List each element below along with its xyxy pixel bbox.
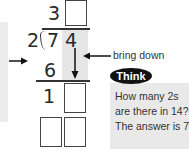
quotient-tens-digit: 3 [48,4,60,23]
think-badge: Think [110,68,152,84]
arrow-left-icon [82,51,112,61]
bring-down-label: bring down [113,49,164,61]
think-line-1: How many 2s [115,90,179,102]
product2-ones-box[interactable] [64,117,86,147]
product2-tens-box[interactable] [40,117,62,147]
quotient-ones-box[interactable] [65,0,87,26]
bring-down-box[interactable] [64,83,86,113]
divisor: 2 [27,31,39,50]
product-digit: 6 [44,61,56,80]
think-line-3: The answer is 7. [115,120,189,132]
subtraction-line [36,80,90,82]
left-margin-strip [0,22,8,122]
think-line-2: are there in 14? [115,105,189,117]
arrow-right-icon [9,56,29,66]
difference-digit: 1 [43,87,55,106]
division-bracket [40,31,46,50]
dividend-tens: 7 [47,31,59,50]
arrow-down-icon [70,48,80,80]
